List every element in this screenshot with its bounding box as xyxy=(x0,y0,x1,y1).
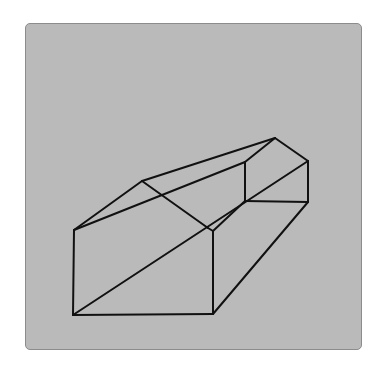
edge-F-I xyxy=(245,138,275,162)
edge-E-D xyxy=(142,181,208,228)
edge-D2-J xyxy=(213,201,245,231)
edge-J-H xyxy=(245,201,308,202)
edge-F-G xyxy=(275,138,308,161)
edge-E-F xyxy=(142,138,275,181)
edge-A-B xyxy=(73,230,74,315)
edge-B-C xyxy=(73,314,213,315)
wireframe-solid-drawing xyxy=(0,0,382,377)
edge-A-E xyxy=(74,181,142,230)
